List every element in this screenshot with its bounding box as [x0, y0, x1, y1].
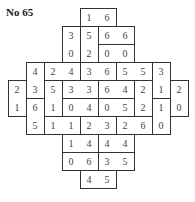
domino-pip-value: 5: [116, 62, 134, 80]
domino[interactable]: 14: [62, 134, 99, 153]
domino[interactable]: 26: [116, 116, 153, 135]
domino-pip-value: 3: [62, 80, 80, 98]
domino-pip-value: 0: [98, 98, 116, 116]
domino-pip-value: 6: [80, 152, 98, 170]
domino[interactable]: 10: [152, 98, 171, 135]
domino[interactable]: 36: [80, 62, 117, 81]
domino-pip-value: 5: [44, 80, 62, 98]
domino-pip-value: 4: [80, 98, 98, 116]
domino-pip-value: 6: [98, 26, 116, 44]
domino-grid: 1630526600432436553121513364222065040510…: [8, 8, 188, 188]
domino-pip-value: 6: [98, 8, 116, 26]
domino-pip-value: 6: [116, 26, 134, 44]
domino-pip-value: 2: [80, 116, 98, 134]
domino-pip-value: 3: [98, 152, 116, 170]
domino-pip-value: 6: [98, 62, 116, 80]
domino-pip-value: 0: [62, 98, 80, 116]
domino-pip-value: 5: [80, 26, 98, 44]
domino-pip-value: 0: [98, 44, 116, 62]
domino[interactable]: 33: [62, 80, 99, 99]
domino[interactable]: 04: [62, 98, 99, 117]
domino-pip-value: 2: [134, 80, 152, 98]
domino[interactable]: 05: [98, 98, 135, 117]
domino-pip-value: 4: [62, 62, 80, 80]
domino-pip-value: 2: [116, 116, 134, 134]
domino-pip-value: 1: [62, 134, 80, 152]
domino[interactable]: 43: [26, 62, 45, 99]
domino-pip-value: 2: [170, 80, 188, 98]
domino-pip-value: 4: [80, 170, 98, 188]
domino-pip-value: 6: [98, 80, 116, 98]
domino-pip-value: 5: [116, 152, 134, 170]
domino-pip-value: 0: [62, 152, 80, 170]
domino[interactable]: 55: [116, 62, 153, 81]
domino-pip-value: 5: [116, 98, 134, 116]
domino[interactable]: 20: [170, 80, 189, 117]
domino-pip-value: 3: [80, 62, 98, 80]
domino-pip-value: 1: [152, 98, 170, 116]
domino-pip-value: 1: [44, 116, 62, 134]
domino[interactable]: 24: [44, 62, 81, 81]
domino-pip-value: 1: [152, 80, 170, 98]
domino[interactable]: 11: [44, 116, 81, 135]
domino[interactable]: 52: [80, 26, 99, 63]
domino-pip-value: 0: [62, 44, 80, 62]
domino-pip-value: 3: [152, 62, 170, 80]
domino-pip-value: 4: [26, 62, 44, 80]
domino-pip-value: 5: [98, 170, 116, 188]
domino-pip-value: 2: [44, 62, 62, 80]
domino-pip-value: 5: [134, 62, 152, 80]
domino-pip-value: 1: [44, 98, 62, 116]
domino[interactable]: 00: [98, 44, 135, 63]
domino-pip-value: 5: [26, 116, 44, 134]
domino-pip-value: 3: [26, 80, 44, 98]
domino-pip-value: 3: [98, 116, 116, 134]
domino[interactable]: 64: [98, 80, 135, 99]
domino[interactable]: 16: [80, 8, 117, 27]
domino[interactable]: 51: [44, 80, 63, 117]
domino-pip-value: 1: [62, 116, 80, 134]
domino[interactable]: 06: [62, 152, 99, 171]
domino-pip-value: 4: [98, 134, 116, 152]
domino-pip-value: 1: [80, 8, 98, 26]
domino-pip-value: 4: [116, 134, 134, 152]
domino[interactable]: 44: [98, 134, 135, 153]
domino[interactable]: 66: [98, 26, 135, 45]
domino-pip-value: 2: [80, 44, 98, 62]
domino-pip-value: 6: [26, 98, 44, 116]
domino-pip-value: 1: [8, 98, 26, 116]
domino[interactable]: 30: [62, 26, 81, 63]
domino[interactable]: 21: [8, 80, 27, 117]
domino-pip-value: 4: [116, 80, 134, 98]
domino[interactable]: 35: [98, 152, 135, 171]
domino-pip-value: 0: [152, 116, 170, 134]
domino[interactable]: 45: [80, 170, 117, 189]
domino-pip-value: 2: [134, 98, 152, 116]
domino[interactable]: 65: [26, 98, 45, 135]
domino-pip-value: 4: [80, 134, 98, 152]
domino-pip-value: 6: [134, 116, 152, 134]
domino-pip-value: 3: [62, 26, 80, 44]
domino-pip-value: 3: [80, 80, 98, 98]
domino-pip-value: 0: [116, 44, 134, 62]
domino-pip-value: 0: [170, 98, 188, 116]
domino[interactable]: 23: [80, 116, 117, 135]
domino[interactable]: 31: [152, 62, 171, 99]
domino-pip-value: 2: [8, 80, 26, 98]
domino[interactable]: 22: [134, 80, 153, 117]
